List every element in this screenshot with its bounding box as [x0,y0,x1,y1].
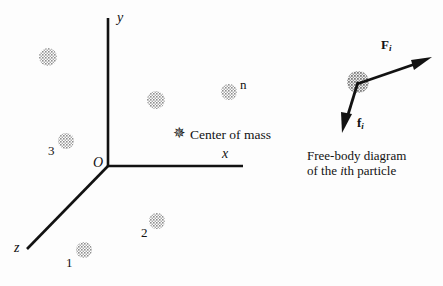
force-internal-arrowhead [341,112,352,133]
force-internal-subscript: i [361,121,364,131]
particle-unlabeled-upper-left [39,48,57,66]
z-axis-line [27,166,108,249]
particle-middle-dot [147,91,165,109]
y-axis-label: y [117,11,123,25]
z-axis-label: z [14,241,19,255]
particles-group [39,48,237,258]
particle-label-3: 3 [48,144,55,157]
particle-2-dot [149,213,165,229]
particle-1-dot [76,242,92,258]
particle-n-dot [221,84,237,100]
particle-label-2: 2 [141,226,148,239]
particle-3-dot [58,133,74,149]
force-external-symbol: F [381,37,389,52]
particle-label-1: 1 [66,256,73,269]
diagram-canvas [0,0,443,286]
free-body-diagram-group [341,57,432,133]
caption-line-2-prefix: of the [307,163,340,178]
caption-line-2-suffix: th particle [344,163,396,178]
force-external-shaft [357,62,421,84]
center-of-mass-star-icon: ✵ [173,126,186,141]
origin-label: O [93,156,103,170]
force-external-arrowhead [411,57,432,70]
caption-line-2: of the ith particle [307,163,406,178]
free-body-diagram-caption: Free-body diagram of the ith particle [307,148,406,179]
force-external-label: Fi [381,38,391,53]
x-axis-label: x [222,147,228,161]
particle-label-n: n [240,78,247,91]
particle-system-diagram: y x z O ✵ Center of mass 3 1 2 n Fi fi F… [0,0,443,286]
force-external-subscript: i [389,43,392,53]
force-internal-label: fi [357,116,364,131]
center-of-mass-label: Center of mass [190,128,271,142]
caption-line-1: Free-body diagram [307,148,406,163]
